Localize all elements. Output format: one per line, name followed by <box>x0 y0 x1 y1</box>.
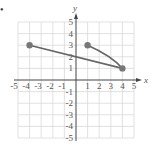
y-tick: -4 <box>66 121 74 131</box>
y-tick: -2 <box>66 98 74 108</box>
x-tick: -3 <box>34 81 42 91</box>
x-tick: -5 <box>10 81 18 91</box>
y-tick: 1 <box>69 63 74 73</box>
point-marker <box>84 42 90 48</box>
x-tick: 3 <box>109 81 114 91</box>
y-axis-arrow-icon <box>74 13 78 19</box>
x-axis-label: x <box>143 75 148 85</box>
y-tick: 3 <box>69 40 74 50</box>
y-tick: -3 <box>66 110 74 120</box>
item-bullet: • <box>0 4 4 15</box>
y-tick: 4 <box>69 29 74 39</box>
y-tick: 5 <box>69 17 74 27</box>
x-tick: 4 <box>120 81 125 91</box>
y-axis-label: y <box>72 3 77 13</box>
x-tick-labels: -5 -4 -3 -2 -1 1 2 3 4 5 <box>10 81 137 91</box>
point-marker <box>119 65 125 71</box>
graph: • x y -5 -4 -3 -2 -1 1 2 <box>0 0 152 148</box>
y-tick: -1 <box>66 87 74 97</box>
x-tick: -2 <box>46 81 54 91</box>
y-tick: -5 <box>66 133 74 143</box>
x-axis-arrow-icon <box>136 78 142 82</box>
x-tick: 1 <box>85 81 90 91</box>
y-tick: 2 <box>69 52 74 62</box>
x-tick: 5 <box>132 81 137 91</box>
x-tick: -4 <box>22 81 30 91</box>
point-marker <box>26 42 32 48</box>
x-tick: 2 <box>97 81 102 91</box>
